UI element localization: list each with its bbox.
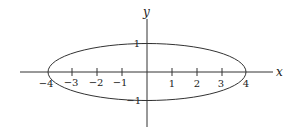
x-tick-label: 2: [194, 78, 200, 89]
x-tick-label: 1: [169, 78, 175, 89]
y-axis-label: y: [142, 5, 150, 19]
y-tick-label: −1: [126, 95, 141, 106]
x-tick-label: 3: [218, 78, 224, 89]
ellipse-diagram: −4 −3 −2 −1 1 2 3 4 1 −1 x y: [0, 0, 293, 137]
x-tick-label: −2: [89, 77, 104, 88]
x-tick-label: −3: [64, 77, 79, 88]
x-axis-label: x: [276, 65, 283, 79]
y-tick-label: 1: [134, 38, 140, 49]
x-tick-label: −4: [39, 78, 54, 89]
x-tick-label: 4: [243, 78, 249, 89]
x-tick-label: −1: [113, 77, 128, 88]
